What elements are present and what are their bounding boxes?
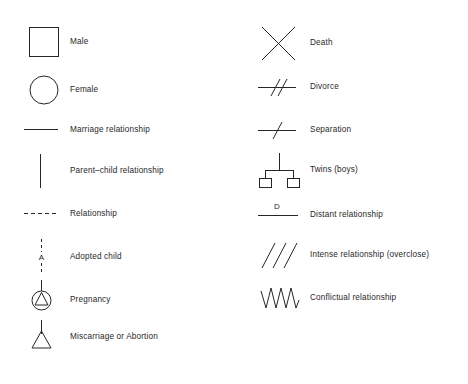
miscarriage-symbol bbox=[18, 315, 64, 359]
legend-row-divorce: Divorce bbox=[234, 65, 468, 109]
legend-label: Intense relationship (overclose) bbox=[310, 233, 429, 277]
circle-symbol bbox=[18, 68, 64, 112]
labeled-line-symbol: D bbox=[258, 193, 304, 237]
legend-label: Parent–child relationship bbox=[70, 149, 164, 193]
legend-label: Male bbox=[70, 20, 88, 64]
square-symbol bbox=[18, 20, 64, 64]
legend-row-female: Female bbox=[0, 68, 234, 112]
legend-row-relationship: Relationship bbox=[0, 192, 234, 236]
cross-x-symbol bbox=[258, 21, 304, 65]
legend-row-twins: Twins (boys) bbox=[234, 148, 468, 192]
legend-label: Twins (boys) bbox=[310, 148, 358, 192]
twins-symbol bbox=[258, 148, 304, 192]
legend-row-male: Male bbox=[0, 20, 234, 64]
legend-label: Divorce bbox=[310, 65, 339, 109]
zigzag-symbol bbox=[258, 276, 304, 320]
vertical-line-symbol bbox=[18, 149, 64, 193]
legend-row-miscarriage: Miscarriage or Abortion bbox=[0, 315, 234, 359]
double-slash-line-symbol bbox=[258, 65, 304, 109]
legend-label: Relationship bbox=[70, 192, 117, 236]
genogram-legend-sheet: Male Female Marriage relationship bbox=[0, 0, 468, 384]
triple-slash-symbol bbox=[258, 233, 304, 277]
adopted-child-annotation: A bbox=[39, 253, 45, 262]
legend-row-marriage: Marriage relationship bbox=[0, 108, 234, 152]
legend-row-adopted-child: A Adopted child bbox=[0, 235, 234, 279]
horizontal-line-symbol bbox=[18, 108, 64, 152]
single-slash-line-symbol bbox=[258, 108, 304, 152]
legend-row-death: Death bbox=[234, 21, 468, 65]
legend-label: Distant relationship bbox=[310, 193, 383, 237]
distant-relationship-annotation: D bbox=[274, 202, 280, 211]
adopted-child-symbol: A bbox=[18, 235, 64, 279]
legend-row-distant: D Distant relationship bbox=[234, 193, 468, 237]
legend-label: Conflictual relationship bbox=[310, 276, 396, 320]
legend-column-left: Male Female Marriage relationship bbox=[0, 0, 234, 384]
legend-row-parent-child: Parent–child relationship bbox=[0, 149, 234, 193]
legend-column-right: Death Divorce Separation bbox=[234, 0, 468, 384]
legend-label: Miscarriage or Abortion bbox=[70, 315, 158, 359]
legend-row-separation: Separation bbox=[234, 108, 468, 152]
legend-row-intense: Intense relationship (overclose) bbox=[234, 233, 468, 277]
dashed-line-symbol bbox=[18, 192, 64, 236]
legend-label: Separation bbox=[310, 108, 351, 152]
legend-label: Adopted child bbox=[70, 235, 122, 279]
legend-label: Marriage relationship bbox=[70, 108, 150, 152]
legend-label: Female bbox=[70, 68, 98, 112]
legend-row-conflictual: Conflictual relationship bbox=[234, 276, 468, 320]
legend-label: Death bbox=[310, 21, 333, 65]
